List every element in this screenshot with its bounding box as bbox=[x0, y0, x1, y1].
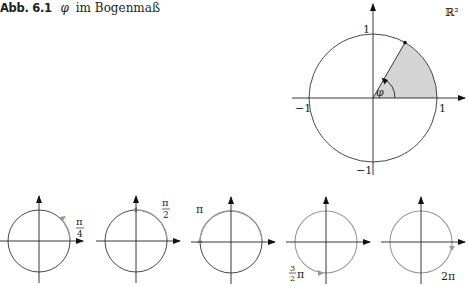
small-diagram-pi: π bbox=[191, 197, 275, 284]
traversed-arc bbox=[61, 219, 70, 241]
angle-label: 2π bbox=[441, 270, 455, 283]
small-diagram-three-halves-pi: 3 2 π bbox=[286, 197, 370, 284]
arc-arrow-icon bbox=[449, 246, 455, 251]
main-unit-circle-diagram: φ ℝ² 1 −1 1 −1 bbox=[292, 4, 465, 177]
tick-label-y-neg: −1 bbox=[356, 164, 372, 177]
angle-label-numerator: π bbox=[76, 216, 83, 227]
point-on-circle bbox=[403, 41, 407, 45]
figure-canvas: φ ℝ² 1 −1 1 −1 π 4 π 2 π bbox=[0, 0, 468, 286]
tick-label-x-pos: 1 bbox=[439, 102, 446, 115]
angle-label-denominator: 2 bbox=[163, 210, 169, 220]
angle-label-numerator: π bbox=[162, 197, 169, 208]
angle-label-suffix: π bbox=[297, 268, 304, 281]
tick-label-y-pos: 1 bbox=[363, 23, 370, 36]
angle-label-denominator: 2 bbox=[290, 274, 295, 283]
angle-label-numerator: 3 bbox=[290, 264, 295, 273]
angle-label: φ bbox=[376, 86, 384, 99]
small-diagram-pi-half: π 2 bbox=[96, 196, 180, 283]
small-diagram-pi-quarter: π 4 bbox=[0, 196, 84, 283]
space-label: ℝ² bbox=[445, 6, 459, 19]
tick-label-x-neg: −1 bbox=[295, 102, 311, 115]
angle-label: π bbox=[196, 203, 203, 216]
small-diagram-two-pi: 2π bbox=[381, 197, 465, 284]
angle-label-denominator: 4 bbox=[77, 229, 83, 239]
arc-arrow-icon bbox=[318, 270, 324, 276]
